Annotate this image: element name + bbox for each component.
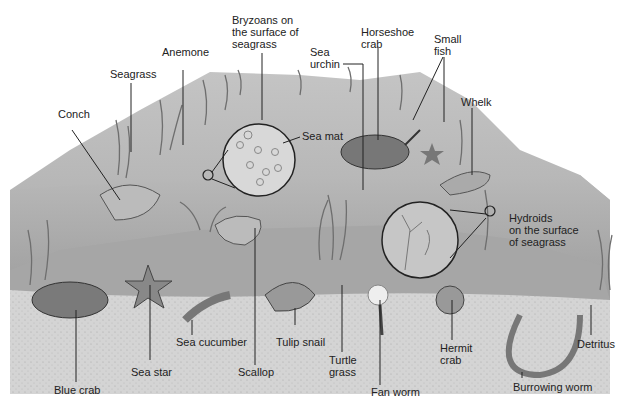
label-blue-crab: Blue crab	[54, 384, 100, 396]
label-turtle-grass: Turtle grass	[329, 354, 357, 378]
fan-worm-shape	[368, 285, 388, 305]
hermit-crab-shape	[436, 286, 464, 314]
label-sea-urchin: Sea urchin	[310, 46, 340, 70]
label-scallop: Scallop	[238, 366, 274, 378]
label-detritus: Detritus	[577, 338, 615, 350]
label-anemone: Anemone	[162, 46, 209, 58]
label-seagrass: Seagrass	[110, 68, 156, 80]
label-sea-star: Sea star	[131, 366, 172, 378]
label-hydroids: Hydroids on the surface of seagrass	[509, 212, 579, 248]
label-burrowing-worm: Burrowing worm	[513, 381, 592, 393]
label-sea-mat: Sea mat	[302, 130, 343, 142]
hydroid-magnifier	[382, 202, 458, 278]
label-small-fish: Small fish	[434, 33, 462, 57]
label-conch: Conch	[58, 108, 90, 120]
blue-crab-shape	[32, 282, 108, 318]
label-sea-cucumber: Sea cucumber	[176, 336, 247, 348]
label-bryozoans: Bryzoans on the surface of seagrass	[232, 14, 299, 50]
label-fan-worm: Fan worm	[371, 386, 420, 398]
label-tulip-snail: Tulip snail	[276, 336, 325, 348]
horseshoe-crab-shape	[341, 135, 409, 169]
seagrass-ecosystem-diagram: Bryzoans on the surface of seagrass Anem…	[0, 0, 628, 411]
label-horseshoe-crab: Horseshoe crab	[361, 26, 414, 50]
label-hermit-crab: Hermit crab	[440, 342, 472, 366]
label-whelk: Whelk	[461, 96, 492, 108]
